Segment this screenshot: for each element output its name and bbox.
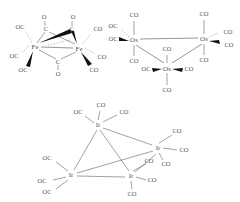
metal-label-os-left: Os bbox=[130, 36, 138, 44]
os-os-left-bond bbox=[136, 45, 164, 63]
co-label-os-9: CO bbox=[162, 45, 171, 52]
ir-bottomleft-co-down-bond bbox=[56, 180, 68, 189]
terminal-co-label-fe-5: CO bbox=[97, 53, 106, 60]
co-label-os-1: CO bbox=[129, 11, 138, 18]
metal-label-fe-left: Fe bbox=[32, 43, 39, 51]
fe-left-bridge3-bond bbox=[39, 50, 56, 59]
co-label-os-11: OC bbox=[141, 65, 150, 72]
os-bottom-co-wedge-left bbox=[152, 68, 162, 72]
co-label-os-8: CO bbox=[224, 41, 233, 48]
structure-os3co12: Os Os Os CO CO OC OC CO CO CO CO CO CO O… bbox=[108, 10, 233, 93]
terminal-co-label-fe-2: OC bbox=[9, 52, 18, 59]
ir-apex-co-right-bond bbox=[103, 115, 117, 122]
os-os-top-bond bbox=[140, 38, 198, 39]
co-label-ir-12: CO bbox=[127, 190, 136, 197]
ir-bottomleft-co-up-bond bbox=[56, 162, 68, 171]
ir-apex-co-up-bond bbox=[98, 111, 100, 120]
figure-canvas: Fe Fe C O C O C O OC OC OC CO CO CO bbox=[0, 0, 240, 202]
os-bottom-co-wedge-right bbox=[172, 68, 183, 72]
co-label-os-7: CO bbox=[223, 28, 232, 35]
terminal-co-label-fe-3: OC bbox=[18, 66, 27, 73]
fe-left-terminal2-bond bbox=[21, 46, 29, 53]
co-label-ir-6: CO bbox=[161, 160, 170, 167]
fe-fe-bond bbox=[41, 47, 73, 48]
ir-edge-bottomleft-right bbox=[77, 151, 153, 173]
bridge-c-label-2: C bbox=[70, 25, 74, 32]
fe-right-terminal1-bond bbox=[83, 33, 91, 44]
fe-inner-dashed-contact bbox=[48, 40, 70, 45]
ir-edge-bottomleft-bottomcenter bbox=[77, 176, 125, 177]
co-label-ir-8: OC bbox=[37, 177, 46, 184]
terminal-co-label-fe-6: CO bbox=[89, 66, 98, 73]
co-label-os-4: OC bbox=[108, 35, 117, 42]
co-label-os-10: CO bbox=[162, 86, 171, 93]
metal-label-ir-bottomcenter: Ir bbox=[129, 172, 134, 180]
co-label-ir-1: CO bbox=[96, 101, 105, 108]
metal-label-os-bottom: Os bbox=[163, 65, 171, 73]
ir-right-co-down-bond bbox=[159, 153, 163, 160]
metal-label-ir-bottomleft: Ir bbox=[69, 171, 74, 179]
co-label-ir-10: CO bbox=[144, 157, 153, 164]
fe-right-bridge3-bond bbox=[61, 52, 76, 59]
metal-label-ir-right: Ir bbox=[156, 144, 161, 152]
co-label-ir-3: CO bbox=[119, 108, 128, 115]
fe-left-terminal1-bond bbox=[26, 32, 32, 42]
co-label-os-2: CO bbox=[129, 57, 138, 64]
os-right-co-wedge bbox=[209, 40, 220, 44]
chemical-structures-diagram: Fe Fe C O C O C O OC OC OC CO CO CO bbox=[0, 0, 240, 202]
structure-fe2co9: Fe Fe C O C O C O OC OC OC CO CO CO bbox=[9, 13, 106, 77]
co-label-ir-11: CO bbox=[147, 176, 156, 183]
co-label-ir-2: OC bbox=[73, 108, 82, 115]
co-label-ir-4: CO bbox=[172, 127, 181, 134]
os-os-right-bond bbox=[172, 44, 202, 63]
ir-edge-apex-right bbox=[103, 128, 152, 145]
os-right-co-dashed-bond bbox=[209, 33, 219, 37]
fe-right-terminal2-bond bbox=[85, 48, 95, 54]
co-label-os-6: CO bbox=[199, 56, 208, 63]
terminal-co-label-fe-1: OC bbox=[15, 23, 24, 30]
os-left-co-wedge bbox=[119, 37, 129, 41]
structure-ir4co12: Ir Ir Ir Ir CO OC CO CO CO CO OC OC OC C… bbox=[37, 101, 188, 197]
ir-bottomcenter-co-up-bond bbox=[133, 164, 146, 171]
ir-right-co-side-bond bbox=[163, 148, 177, 150]
metal-label-fe-right: Fe bbox=[76, 45, 83, 53]
ir-bottomleft-co-mid-bond bbox=[53, 177, 66, 180]
co-label-os-3: OC bbox=[108, 22, 117, 29]
os-left-co-dashed-bond bbox=[121, 29, 129, 37]
terminal-co-label-fe-4: CO bbox=[93, 25, 102, 32]
co-label-os-12: CO bbox=[184, 65, 193, 72]
co-label-os-5: CO bbox=[199, 10, 208, 17]
bridge-o-label-3: O bbox=[56, 70, 61, 77]
fe-right-bridge2-wedge bbox=[71, 31, 77, 44]
fe-left-terminal3-wedge bbox=[26, 51, 33, 67]
metal-label-ir-apex: Ir bbox=[96, 121, 101, 129]
co-label-ir-7: OC bbox=[42, 154, 51, 161]
ir-bottomcenter-co-down-bond bbox=[131, 181, 132, 189]
fe-right-terminal3-wedge bbox=[81, 52, 92, 66]
ir-bottomcenter-co-side-bond bbox=[136, 177, 146, 180]
co-label-ir-5: CO bbox=[179, 146, 188, 153]
bridge-o-label-1: O bbox=[42, 13, 47, 20]
bridge-o-label-2: O bbox=[71, 13, 76, 20]
ir-edge-apex-bottomleft bbox=[74, 130, 97, 170]
bridge-c-label-3: C bbox=[56, 58, 60, 65]
ir-apex-co-left-bond bbox=[85, 116, 94, 123]
metal-label-os-right: Os bbox=[200, 35, 208, 43]
co-label-ir-9: OC bbox=[42, 188, 51, 195]
bridge-c-label-1: C bbox=[44, 25, 48, 32]
ir-right-co-up-bond bbox=[159, 135, 172, 143]
